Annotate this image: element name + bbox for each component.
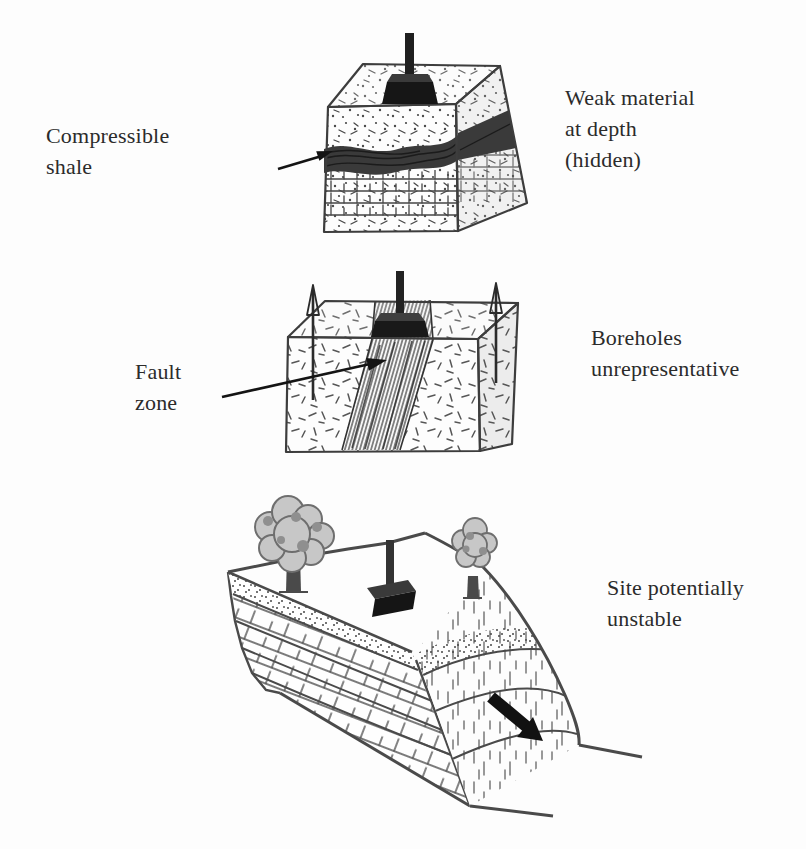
- tree-icon: [255, 496, 334, 592]
- fault-block-illustration: [200, 265, 530, 465]
- caption-fault-zone: Fault zone: [135, 356, 181, 418]
- shale-block-illustration: [250, 25, 550, 250]
- caption-compressible-shale: Compressible shale: [46, 120, 169, 182]
- caption-site-unstable: Site potentially unstable: [607, 572, 744, 634]
- limestone-texture: [322, 170, 462, 216]
- unstable-slope-illustration: [140, 485, 670, 835]
- caption-weak-material: Weak material at depth (hidden): [565, 82, 695, 175]
- caption-boreholes-unrepresentative: Boreholes unrepresentative: [591, 322, 740, 384]
- borehole-rig-icon: [367, 540, 416, 617]
- figure-canvas: Compressible shale: [0, 0, 806, 849]
